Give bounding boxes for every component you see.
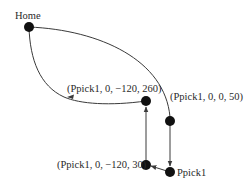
label-home: Home: [15, 11, 41, 22]
node-approach: [165, 116, 175, 126]
label-lift: (Ppick1, 0, −120, 260): [67, 84, 162, 95]
node-pick: [165, 167, 175, 177]
node-home: [24, 22, 34, 32]
label-pick: Ppick1: [177, 168, 206, 179]
label-approach: (Ppick1, 0, 0, 50): [170, 92, 243, 103]
node-lift: [141, 96, 151, 106]
label-shift: (Ppick1, 0, −120, 30): [57, 160, 146, 171]
